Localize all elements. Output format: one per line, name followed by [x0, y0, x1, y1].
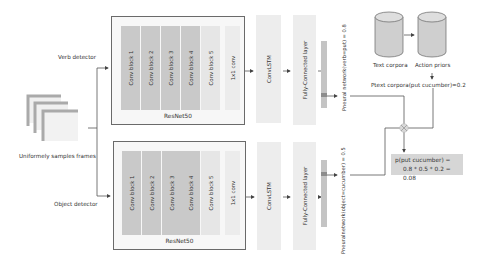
object-conv-block-4: Conv block 4 — [181, 151, 200, 235]
text-corpora-probability: Ptext corpora(put cucumber)=0.2 — [371, 82, 466, 88]
result-line-2: 0.8 * 0.5 * 0.2 = 0.08 — [395, 165, 459, 183]
result-box: p(put cucumber) = 0.8 * 0.5 * 0.2 = 0.08 — [391, 154, 463, 175]
object-1x1-conv: 1x1 conv — [225, 151, 240, 235]
verb-detector-label: Verb detector — [58, 54, 96, 60]
verb-fc-layer: Fully-Connected layer — [293, 15, 316, 125]
action-priors-cylinder-icon — [418, 12, 446, 57]
object-conv-block-1: Conv block 1 — [122, 151, 141, 235]
verb-output-vector — [321, 41, 327, 108]
verb-conv-block-1: Conv block 1 — [121, 26, 140, 110]
verb-conv-block-4: Conv block 4 — [181, 26, 200, 110]
verb-probability-label: Pneural network(verb=put) = 0.8 — [341, 24, 347, 111]
object-conv-block-2: Conv block 2 — [142, 151, 161, 235]
verb-conv-block-2: Conv block 2 — [141, 26, 160, 110]
input-frames-label: Uniformely samples frames — [19, 153, 96, 159]
object-probability-label: Pneuralnetwork(object=cucumber) = 0.5 — [340, 147, 346, 254]
object-resnet50-panel: Conv block 1 Conv block 2 Conv block 3 C… — [113, 141, 246, 250]
stacked-frames-icon — [28, 96, 78, 141]
verb-conv-block-3: Conv block 3 — [161, 26, 180, 110]
action-priors-label: Action priors — [415, 62, 450, 68]
result-line-1: p(put cucumber) = — [395, 156, 459, 165]
multiply-node-icon — [400, 124, 408, 132]
object-conv-block-3: Conv block 3 — [162, 151, 181, 235]
verb-conv-block-5: Conv block 5 — [201, 26, 220, 110]
object-resnet50-label: ResNet50 — [114, 238, 245, 244]
object-conv-block-5: Conv block 5 — [201, 151, 220, 235]
object-convlstm: ConvLSTM — [257, 142, 281, 250]
object-detector-label: Object detector — [54, 201, 98, 207]
object-output-vector — [321, 160, 327, 227]
text-corpora-label: Text corpora — [373, 62, 408, 68]
verb-resnet50-panel: Conv block 1 Conv block 2 Conv block 3 C… — [111, 16, 245, 125]
text-corpora-cylinder-icon — [375, 12, 403, 57]
object-fc-layer: Fully-Connected layer — [293, 142, 316, 250]
verb-1x1-conv: 1x1 conv — [225, 26, 240, 110]
verb-resnet50-label: ResNet50 — [112, 113, 244, 119]
verb-convlstm: ConvLSTM — [256, 15, 281, 123]
